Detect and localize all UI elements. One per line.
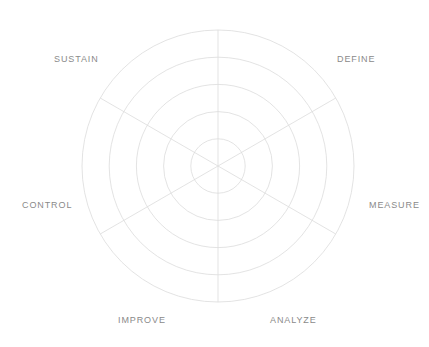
spoke-improve [100, 166, 218, 234]
grid-spokes [100, 30, 336, 302]
axis-label-control: CONTROL [22, 200, 72, 211]
spoke-sustain [100, 98, 218, 166]
radar-chart: SUSTAIN DEFINE MEASURE ANALYZE IMPROVE C… [0, 0, 429, 347]
spoke-measure [218, 166, 336, 234]
axis-label-define: DEFINE [337, 54, 375, 65]
axis-label-measure: MEASURE [369, 200, 420, 211]
axis-label-improve: IMPROVE [118, 315, 166, 326]
spoke-define [218, 98, 336, 166]
axis-label-analyze: ANALYZE [270, 315, 317, 326]
polar-grid [0, 0, 429, 347]
axis-label-sustain: SUSTAIN [54, 54, 99, 65]
